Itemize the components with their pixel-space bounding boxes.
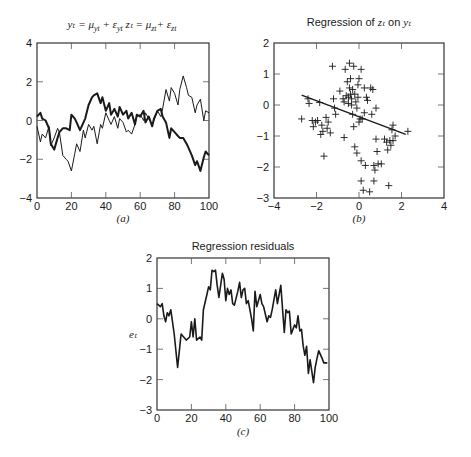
scatter-point-plus (341, 134, 348, 141)
scatter-point-plus (384, 146, 391, 153)
scatter-point-plus (350, 123, 357, 130)
panel-a-lines (37, 76, 209, 171)
y-tick-label: 1 (263, 68, 269, 80)
scatter-point-plus (370, 177, 377, 184)
scatter-point-plus (364, 97, 371, 104)
x-tick-label: 0 (34, 200, 40, 212)
scatter-point-plus (346, 60, 353, 67)
panel-c-title: Regression residuals (192, 240, 295, 252)
scatter-point-plus (390, 122, 397, 129)
scatter-point-plus (358, 66, 365, 73)
panel-c-lines (157, 270, 327, 382)
panel-c-ylabel: eₜ (129, 328, 138, 340)
panel-b-label: (b) (353, 212, 366, 225)
y-tick-label: 0 (146, 313, 152, 325)
panel-c-ticks: 020406080100210−1−2−3 (139, 252, 338, 424)
scatter-point-plus (356, 119, 363, 126)
x-tick-label: −2 (310, 200, 323, 212)
scatter-point-plus (371, 167, 378, 174)
scatter-point-plus (373, 105, 380, 112)
scatter-point-plus (358, 177, 365, 184)
y-tick-label: 2 (26, 76, 32, 88)
scatter-point-plus (350, 63, 357, 70)
scatter-point-plus (370, 162, 377, 169)
scatter-point-plus (385, 182, 392, 189)
series-line (37, 76, 209, 171)
scatter-point-plus (330, 95, 337, 102)
scatter-point-plus (348, 95, 355, 102)
scatter-point-plus (348, 102, 355, 109)
panel-c-residuals: Regression residuals 020406080100210−1−2… (129, 240, 338, 438)
y-tick-label: 4 (26, 37, 32, 49)
x-tick-label: 100 (200, 200, 218, 212)
scatter-point-plus (347, 75, 354, 82)
scatter-point-plus (340, 95, 347, 102)
x-tick-label: 4 (441, 200, 447, 212)
scatter-point-plus (354, 81, 361, 88)
scatter-point-plus (332, 111, 339, 118)
y-tick-label: −2 (139, 374, 152, 386)
y-tick-label: −1 (139, 343, 152, 355)
y-tick-label: 2 (146, 252, 152, 264)
panel-c-label: (c) (237, 425, 250, 438)
figure: yₜ = μyt + εyt zₜ = μzt+ εzt 02040608010… (0, 0, 471, 457)
scatter-point-plus (368, 111, 375, 118)
y-tick-label: −3 (256, 192, 269, 204)
y-tick-label: −2 (19, 153, 32, 165)
scatter-point-plus (342, 66, 349, 73)
panel-b-points (298, 60, 411, 196)
series-line (37, 93, 209, 170)
scatter-point-plus (366, 188, 373, 195)
scatter-point-plus (324, 125, 331, 132)
x-tick-label: 2 (398, 200, 404, 212)
x-tick-label: 20 (65, 200, 77, 212)
scatter-point-plus (298, 115, 305, 122)
y-tick-label: −4 (19, 192, 32, 204)
x-tick-label: 60 (254, 412, 266, 424)
x-tick-label: 60 (134, 200, 146, 212)
series-line (157, 270, 327, 382)
panel-b-title: Regression of zₜ on yₜ (307, 16, 412, 28)
scatter-point-plus (356, 75, 363, 82)
scatter-point-plus (353, 150, 360, 157)
panel-b-scatter: Regression of zₜ on yₜ −4−2024210−1−2−3 … (256, 16, 447, 225)
y-tick-label: −3 (139, 404, 152, 416)
panel-c-frame (157, 258, 329, 410)
scatter-point-plus (329, 63, 336, 70)
y-tick-label: −2 (256, 161, 269, 173)
scatter-point-plus (360, 187, 367, 194)
scatter-point-plus (351, 143, 358, 150)
scatter-point-plus (320, 153, 327, 160)
scatter-point-plus (318, 122, 325, 129)
scatter-point-plus (361, 84, 368, 91)
scatter-point-plus (378, 160, 385, 167)
scatter-point-plus (373, 136, 380, 143)
panel-a-frame (37, 43, 209, 198)
x-tick-label: 20 (185, 412, 197, 424)
scatter-point-plus (345, 100, 352, 107)
scatter-point-plus (374, 148, 381, 155)
x-tick-label: 40 (220, 412, 232, 424)
y-tick-label: 0 (263, 99, 269, 111)
panel-a-label: (a) (117, 212, 130, 225)
x-tick-label: 80 (168, 200, 180, 212)
scatter-point-plus (346, 84, 353, 91)
y-tick-label: −1 (256, 130, 269, 142)
scatter-point-plus (353, 105, 360, 112)
scatter-point-plus (306, 100, 313, 107)
scatter-point-plus (358, 157, 365, 164)
scatter-point-plus (361, 109, 368, 116)
scatter-point-plus (362, 162, 369, 169)
panel-a-time-series: yₜ = μyt + εyt zₜ = μzt+ εzt 02040608010… (19, 18, 218, 225)
y-tick-label: 0 (26, 115, 32, 127)
x-tick-label: 0 (356, 200, 362, 212)
y-tick-label: 1 (146, 282, 152, 294)
scatter-point-plus (341, 98, 348, 105)
panel-a-title: yₜ = μyt + εyt zₜ = μzt+ εzt (67, 18, 178, 33)
x-tick-label: 100 (320, 412, 338, 424)
scatter-point-plus (336, 88, 343, 95)
x-tick-label: −4 (268, 200, 281, 212)
scatter-point-plus (327, 129, 334, 136)
x-tick-label: 0 (154, 412, 160, 424)
scatter-point-plus (344, 78, 351, 85)
